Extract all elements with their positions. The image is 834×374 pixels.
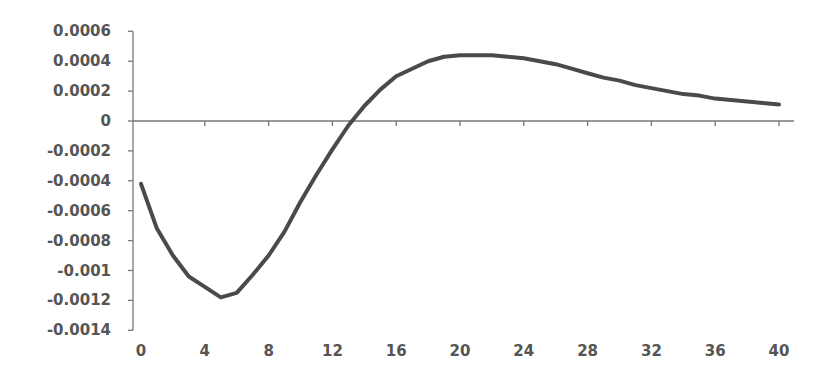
x-tick-label: 28 — [577, 342, 598, 360]
y-axis — [128, 31, 133, 330]
x-tick-label: 32 — [641, 342, 662, 360]
line-chart: 0.00060.00040.00020-0.0002-0.0004-0.0006… — [0, 0, 834, 374]
y-tick-label: -0.001 — [57, 262, 111, 280]
y-tick-labels: 0.00060.00040.00020-0.0002-0.0004-0.0006… — [47, 22, 111, 339]
x-tick-label: 40 — [769, 342, 790, 360]
y-tick-label: -0.0014 — [47, 321, 111, 339]
y-tick-label: 0.0004 — [53, 52, 111, 70]
y-tick-label: 0.0006 — [53, 22, 111, 40]
x-tick-labels: 0481216202428323640 — [136, 342, 790, 360]
y-tick-label: -0.0012 — [47, 291, 111, 309]
x-tick-label: 24 — [513, 342, 534, 360]
x-tick-label: 0 — [136, 342, 146, 360]
x-axis — [133, 121, 794, 126]
x-tick-label: 4 — [200, 342, 210, 360]
x-tick-label: 12 — [322, 342, 343, 360]
y-tick-label: -0.0002 — [47, 142, 111, 160]
y-tick-label: 0 — [101, 112, 111, 130]
x-tick-label: 16 — [386, 342, 407, 360]
y-tick-label: -0.0004 — [47, 172, 111, 190]
x-tick-label: 36 — [705, 342, 726, 360]
y-tick-label: -0.0008 — [47, 232, 111, 250]
series-line — [141, 55, 779, 297]
x-tick-label: 20 — [450, 342, 471, 360]
x-tick-label: 8 — [263, 342, 273, 360]
y-tick-label: 0.0002 — [53, 82, 111, 100]
y-tick-label: -0.0006 — [47, 202, 111, 220]
